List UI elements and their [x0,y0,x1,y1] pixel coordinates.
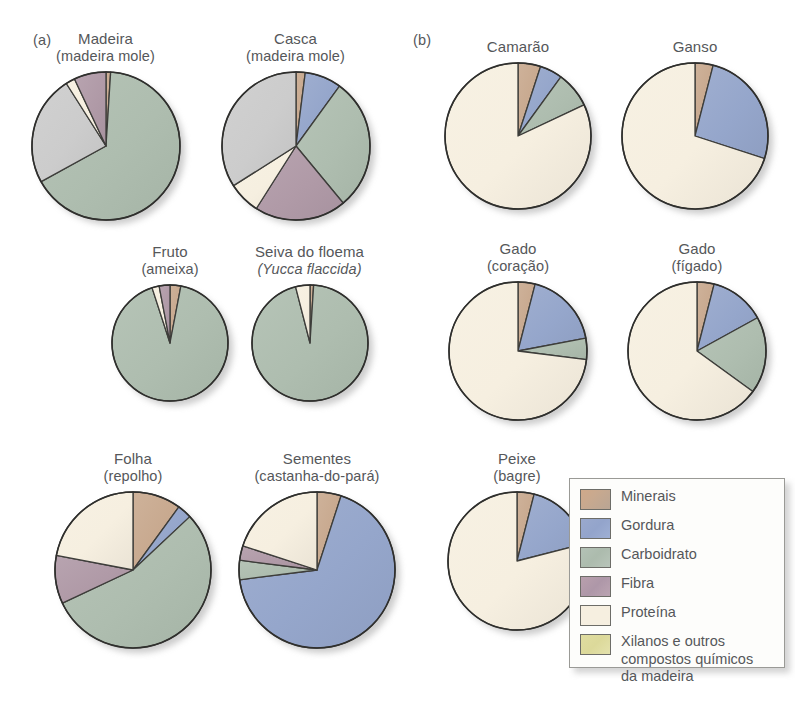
chart-title-seiva: Seiva do floema(Yucca flaccida) [222,243,397,278]
pie-chart-folha [51,488,215,652]
legend-box: MineraisGorduraCarboidratoFibraProteínaX… [569,478,785,668]
legend-label-fibra: Fibra [621,575,654,593]
chart-title-main: Fruto [152,243,188,260]
chart-title-main: Seiva do floema [255,243,364,260]
chart-subtitle: (madeira mole) [18,48,193,66]
chart-subtitle: (coração) [438,258,598,276]
pie-chart-casca [218,68,374,224]
pie-chart-gado-figado [624,278,770,424]
chart-cell-casca: Casca(madeira mole) [208,30,383,224]
pie-chart-fruto [108,281,232,405]
figure-root: (a) (b) Madeira(madeira mole)Casca(madei… [0,0,795,720]
legend-swatch-gordura-icon [580,518,611,539]
panel-b-label: (b) [413,32,431,48]
chart-title-main: Gado [678,240,715,257]
legend-item-carboidrato: Carboidrato [580,546,774,568]
legend-label-gordura: Gordura [621,517,674,535]
pie-svg-fruto [108,281,232,405]
legend-item-fibra: Fibra [580,575,774,597]
legend-label-minerais: Minerais [621,488,676,506]
legend-swatch-carboidrato-icon [580,547,611,568]
pie-chart-ganso [618,59,772,213]
pie-svg-camarao [441,59,595,213]
chart-cell-gado-coracao: Gado(coração) [438,240,598,424]
chart-title-camarao: Camarão [438,38,598,56]
legend-label-carboidrato: Carboidrato [621,546,697,564]
chart-title-casca: Casca(madeira mole) [208,30,383,65]
chart-title-main: Folha [114,450,152,467]
chart-cell-ganso: Ganso [615,38,775,213]
pie-chart-camarao [441,59,595,213]
chart-title-main: Gado [499,240,536,257]
chart-subtitle: (madeira mole) [208,48,383,66]
chart-cell-folha: Folha(repolho) [48,450,218,652]
chart-title-main: Madeira [78,30,133,47]
pie-svg-gado-figado [624,278,770,424]
legend-swatch-minerais-icon [580,489,611,510]
chart-cell-gado-figado: Gado(fígado) [617,240,777,424]
legend-rows: MineraisGorduraCarboidratoFibraProteínaX… [580,488,774,686]
chart-title-ganso: Ganso [615,38,775,56]
legend-label-proteina: Proteína [621,604,676,622]
legend-swatch-proteina-icon [580,605,611,626]
legend-item-gordura: Gordura [580,517,774,539]
pie-svg-folha [51,488,215,652]
chart-title-gado-coracao: Gado(coração) [438,240,598,275]
chart-cell-camarao: Camarão [438,38,598,213]
pie-svg-sementes [235,488,399,652]
pie-chart-seiva [248,281,372,405]
chart-cell-madeira: Madeira(madeira mole) [18,30,193,224]
chart-cell-seiva: Seiva do floema(Yucca flaccida) [222,243,397,405]
pie-svg-gado-coracao [445,278,591,424]
chart-cell-sementes: Sementes(castanha-do-pará) [217,450,417,652]
chart-title-main: Ganso [673,38,718,55]
pie-chart-madeira [28,68,184,224]
legend-swatch-xilanos-icon [580,634,611,655]
chart-title-main: Camarão [487,38,549,55]
chart-title-main: Sementes [283,450,351,467]
chart-subtitle: (repolho) [48,468,218,486]
pie-svg-madeira [28,68,184,224]
legend-item-xilanos: Xilanos e outros compostos químicos da m… [580,633,774,686]
chart-subtitle: (castanha-do-pará) [217,468,417,486]
chart-title-folha: Folha(repolho) [48,450,218,485]
chart-title-madeira: Madeira(madeira mole) [18,30,193,65]
legend-label-xilanos: Xilanos e outros compostos químicos da m… [621,633,753,686]
pie-chart-gado-coracao [445,278,591,424]
chart-subtitle: (fígado) [617,258,777,276]
chart-title-gado-figado: Gado(fígado) [617,240,777,275]
pie-svg-seiva [248,281,372,405]
chart-title-sementes: Sementes(castanha-do-pará) [217,450,417,485]
chart-title-main: Casca [274,30,317,47]
pie-chart-sementes [235,488,399,652]
pie-svg-ganso [618,59,772,213]
chart-title-main: Peixe [498,450,536,467]
chart-subtitle: (Yucca flaccida) [222,261,397,279]
legend-item-proteina: Proteína [580,604,774,626]
legend-swatch-fibra-icon [580,576,611,597]
pie-svg-casca [218,68,374,224]
legend-item-minerais: Minerais [580,488,774,510]
